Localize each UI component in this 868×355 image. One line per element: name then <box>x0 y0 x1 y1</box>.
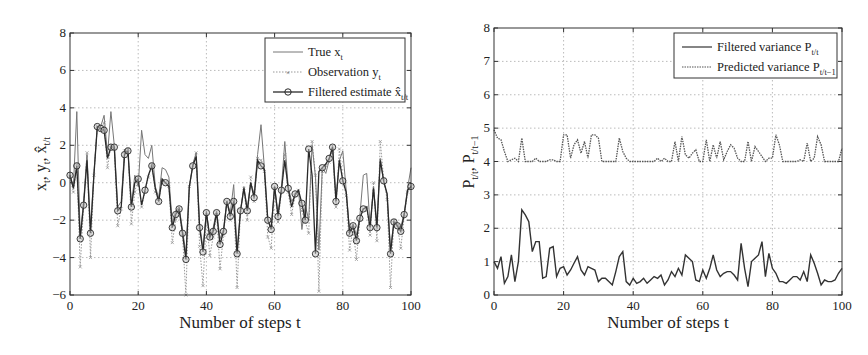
y-axis-label: xt, yt, x̂t/t <box>32 137 52 191</box>
y-tick-label: 0 <box>60 175 67 190</box>
state-estimate-chart: 020406080100−6−4−202468 True xt×Observat… <box>0 0 434 355</box>
x-tick-label: 80 <box>766 298 779 313</box>
y-tick-label: 8 <box>484 20 491 35</box>
legend: True xt×Observation ytFiltered estimate … <box>265 38 409 102</box>
x-axis-label: Number of steps t <box>607 313 729 332</box>
y-tick-label: 0 <box>484 287 491 302</box>
svg-text:×: × <box>286 69 290 77</box>
legend: Filtered variance Pt/tPredicted variance… <box>674 33 837 78</box>
x-tick-label: 20 <box>132 298 145 313</box>
x-tick-label: 100 <box>832 298 852 313</box>
x-axis-label: Number of steps t <box>179 313 301 332</box>
y-tick-label: −6 <box>52 287 66 302</box>
y-tick-label: −2 <box>52 212 66 227</box>
x-tick-label: 40 <box>200 298 213 313</box>
variance-chart: 020406080100012345678 Filtered variance … <box>434 0 868 355</box>
y-tick-label: 6 <box>60 62 67 77</box>
true-state-series <box>70 112 411 254</box>
x-tick-label: 20 <box>557 298 570 313</box>
plot-series <box>67 112 414 297</box>
y-tick-label: 5 <box>484 120 491 135</box>
y-tick-label: −4 <box>52 250 66 265</box>
y-tick-label: 2 <box>484 220 491 235</box>
y-tick-label: 3 <box>484 187 491 202</box>
y-tick-label: 4 <box>60 100 67 115</box>
x-tick-label: 40 <box>627 298 640 313</box>
y-tick-label: 7 <box>484 53 491 68</box>
y-tick-label: 6 <box>484 87 491 102</box>
x-tick-label: 100 <box>401 298 421 313</box>
x-tick-label: 80 <box>336 298 349 313</box>
x-tick-label: 60 <box>696 298 709 313</box>
y-tick-label: 1 <box>484 254 491 269</box>
predicted-variance-series <box>494 130 842 162</box>
y-tick-label: 8 <box>60 25 67 40</box>
y-tick-label: 2 <box>60 137 67 152</box>
plot-series <box>494 130 842 287</box>
x-tick-label: 0 <box>67 298 74 313</box>
filtered-variance-series <box>494 210 842 287</box>
y-axis-label: Pt/t, Pt/t−1 <box>460 135 480 188</box>
x-tick-label: 60 <box>268 298 281 313</box>
x-tick-label: 0 <box>491 298 498 313</box>
y-tick-label: 4 <box>484 154 491 169</box>
